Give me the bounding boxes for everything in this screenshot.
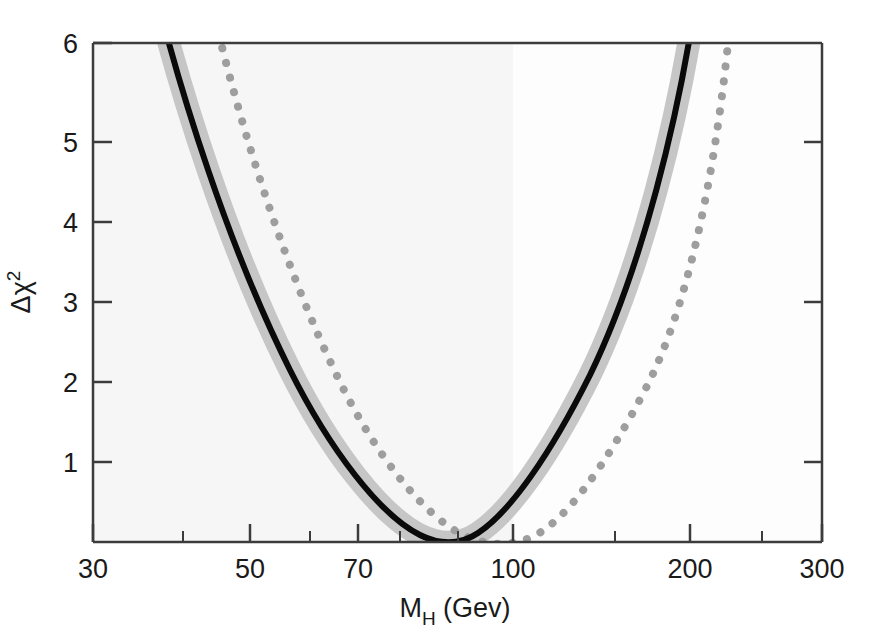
x-tick-label-300: 300: [799, 554, 844, 584]
y-tick-label-5: 5: [63, 128, 78, 158]
y-axis-title-superscript: 2: [3, 271, 24, 282]
plot-canvas: 1 2 3 4 5 6 30 50 70 100 200 300 MH (Gev…: [0, 0, 871, 633]
x-tick-label-30: 30: [78, 554, 108, 584]
x-tick-label-50: 50: [235, 554, 265, 584]
y-tick-label-2: 2: [63, 368, 78, 398]
chi-squared-plot-figure: 1 2 3 4 5 6 30 50 70 100 200 300 MH (Gev…: [0, 0, 871, 633]
x-tick-label-100: 100: [490, 554, 535, 584]
x-axis-title-subscript: H: [422, 608, 436, 629]
y-tick-label-1: 1: [63, 448, 78, 478]
x-axis-title: MH (Gev): [399, 593, 510, 629]
x-tick-label-200: 200: [667, 554, 712, 584]
y-tick-label-6: 6: [63, 29, 78, 59]
y-axis-title: Δχ2: [3, 271, 36, 314]
y-tick-label-4: 4: [63, 208, 78, 238]
x-tick-label-70: 70: [343, 554, 373, 584]
y-axis-title-main: Δχ: [6, 281, 36, 313]
x-axis-title-main: M: [399, 593, 422, 623]
y-tick-label-3: 3: [63, 288, 78, 318]
x-axis-title-unit: (Gev): [436, 593, 511, 623]
